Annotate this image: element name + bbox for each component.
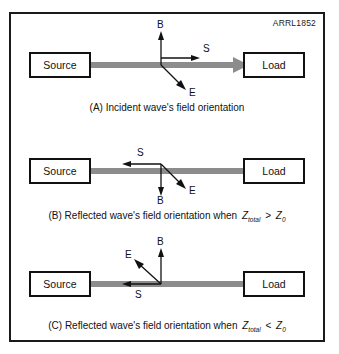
source-box: Source: [29, 271, 91, 297]
panel-a-caption-text: (A) Incident wave's field orientation: [90, 102, 245, 113]
vector-b-label: B: [157, 196, 164, 206]
vector-b-arrowhead: [158, 248, 164, 257]
vector-b-label: B: [157, 237, 164, 247]
vector-s-label: S: [135, 290, 142, 300]
vector-s-arrowhead: [191, 55, 200, 61]
vector-b-label: B: [157, 20, 164, 30]
vector-e-label: E: [125, 250, 132, 260]
panel-b-stage: Source Load S B E: [11, 126, 323, 204]
load-box: Load: [243, 52, 305, 78]
panel-b-caption: (B) Reflected wave's field orientation w…: [11, 210, 323, 223]
panel-b-z0-subscript: 0: [282, 216, 286, 223]
vector-s-label: S: [137, 148, 144, 158]
load-box: Load: [243, 158, 305, 184]
panel-b-z-subscript: total: [248, 216, 260, 223]
panel-b-caption-text: (B) Reflected wave's field orientation w…: [49, 210, 238, 221]
vector-s-label: S: [203, 44, 210, 54]
source-box: Source: [29, 52, 91, 78]
figure-frame: ARRL1852 Source Load B S E: [9, 12, 325, 342]
panel-c: Source Load B E S (C) Reflected wave's f…: [11, 232, 323, 334]
panel-a: Source Load B S E (A) Incident wave's fi…: [11, 20, 323, 122]
panel-a-stage: Source Load B S E: [11, 20, 323, 98]
panel-b: Source Load S B E (B) Reflected wave's f…: [11, 126, 323, 228]
vector-e-label: E: [189, 186, 196, 196]
panel-c-caption-text: (C) Reflected wave's field orientation w…: [48, 320, 237, 331]
source-box: Source: [29, 158, 91, 184]
panel-c-z0-subscript: 0: [282, 326, 286, 333]
panel-c-z-subscript: total: [248, 326, 260, 333]
panel-c-caption: (C) Reflected wave's field orientation w…: [11, 320, 323, 333]
vector-s-arrowhead: [122, 161, 131, 167]
panel-a-caption: (A) Incident wave's field orientation: [11, 102, 323, 113]
panel-c-stage: Source Load B E S: [11, 232, 323, 310]
vector-e-label: E: [189, 88, 196, 98]
load-box: Load: [243, 271, 305, 297]
vector-b-arrowhead: [158, 31, 164, 40]
